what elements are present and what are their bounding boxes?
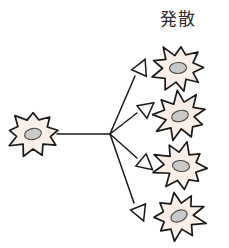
cells-layer [9,43,212,244]
target-cell-1 [150,43,206,94]
branch-1-arrowhead [132,56,153,76]
arrowheads-layer [131,56,159,224]
target-cell-3 [147,135,212,195]
branch-1 [110,76,135,134]
target-cell-2 [150,88,208,143]
divergence-diagram: 発散 [0,0,229,248]
source-cell [9,113,58,157]
branch-4-arrowhead [131,204,151,224]
target-cell-4 [150,187,210,244]
connector-lines-layer [57,76,137,203]
diagram-canvas [0,0,229,248]
divergence-label: 発散 [160,11,195,28]
